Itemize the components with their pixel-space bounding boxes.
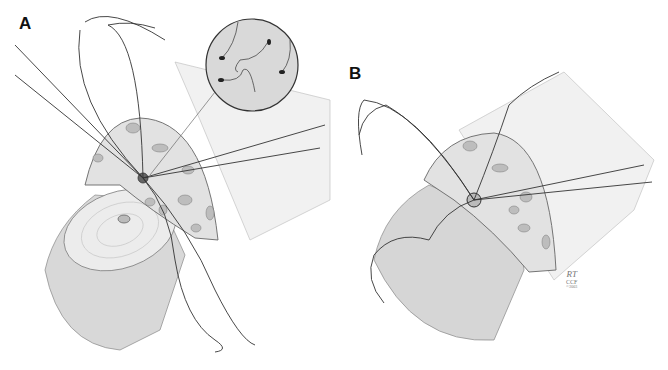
magnified-inset [206,19,298,111]
signature-year: ©2003 [566,285,577,289]
panel-label-a: A [19,14,31,34]
signature-initials: RT [566,270,577,279]
panel-b: B RT CCF ©2003 [334,0,668,370]
panel-a: A [0,0,334,370]
artist-signature: RT CCF ©2003 [566,270,577,289]
illustration-a [0,0,334,370]
panel-label-b: B [349,64,361,84]
illustration-b [334,0,668,370]
